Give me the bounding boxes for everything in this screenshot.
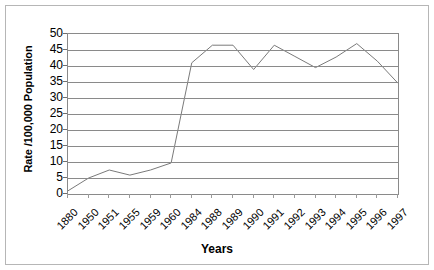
y-axis-tick-mark — [63, 177, 67, 178]
x-axis-tick-mark — [253, 194, 254, 198]
gridline — [68, 162, 398, 163]
x-axis-tick-mark — [88, 194, 89, 198]
y-axis-tick-label: 30 — [33, 91, 63, 103]
x-axis-tick-mark — [170, 194, 171, 198]
gridline — [68, 66, 398, 67]
x-axis-tick-mark — [376, 194, 377, 198]
x-axis-tick-mark — [108, 194, 109, 198]
x-axis-tick-mark — [356, 194, 357, 198]
gridline — [68, 114, 398, 115]
y-axis-tick-label: 0 — [33, 187, 63, 199]
y-axis-tick-mark — [63, 65, 67, 66]
x-axis-tick-mark — [150, 194, 151, 198]
y-axis-tick-label: 45 — [33, 43, 63, 55]
y-axis-tick-label: 40 — [33, 59, 63, 71]
y-axis-tick-mark — [63, 49, 67, 50]
gridline — [68, 146, 398, 147]
y-axis-tick-mark — [63, 33, 67, 34]
y-axis-tick-mark — [63, 129, 67, 130]
x-axis-tick-mark — [67, 194, 68, 198]
y-axis-tick-label: 50 — [33, 27, 63, 39]
y-axis-tick-label: 35 — [33, 75, 63, 87]
chart-figure: Rate /100,000 Population Years 051015202… — [0, 0, 434, 270]
y-axis-tick-mark — [63, 161, 67, 162]
x-axis-tick-mark — [315, 194, 316, 198]
x-axis-tick-mark — [294, 194, 295, 198]
y-axis-tick-mark — [63, 113, 67, 114]
x-axis-tick-mark — [211, 194, 212, 198]
x-axis-tick-mark — [191, 194, 192, 198]
x-axis-tick-mark — [129, 194, 130, 198]
x-axis-tick-mark — [335, 194, 336, 198]
y-axis-tick-label: 5 — [33, 171, 63, 183]
x-axis-tick-mark — [397, 194, 398, 198]
y-axis-tick-label: 20 — [33, 123, 63, 135]
y-axis-tick-mark — [63, 81, 67, 82]
y-axis-tick-mark — [63, 97, 67, 98]
gridline — [68, 50, 398, 51]
gridline — [68, 130, 398, 131]
plot-area — [67, 33, 399, 195]
x-axis-tick-mark — [273, 194, 274, 198]
y-axis-tick-label: 25 — [33, 107, 63, 119]
y-axis-tick-mark — [63, 145, 67, 146]
gridline — [68, 178, 398, 179]
gridline — [68, 82, 398, 83]
x-axis-tick-mark — [232, 194, 233, 198]
y-axis-tick-label: 10 — [33, 155, 63, 167]
gridline — [68, 98, 398, 99]
y-axis-tick-label: 15 — [33, 139, 63, 151]
